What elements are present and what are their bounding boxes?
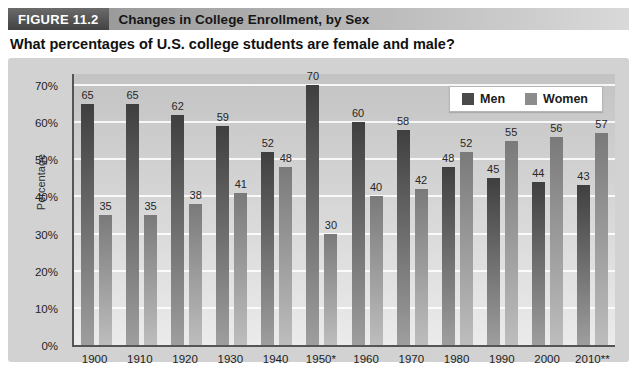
bar-women-1980: 52 (460, 152, 473, 345)
bar-men-1960: 60 (352, 122, 365, 345)
bar-group-1970: 5842 (390, 74, 435, 345)
x-axis-label-1970: 1970 (389, 353, 434, 365)
figure-question: What percentages of U.S. college student… (10, 36, 455, 52)
y-tick-label-70: 70% (10, 80, 58, 92)
bar-men-2010**: 43 (577, 185, 590, 345)
bar-value-label: 52 (460, 137, 472, 149)
bar-women-2000: 56 (550, 137, 563, 345)
bar-value-label: 59 (217, 111, 229, 123)
plot-area: 6535653562385941524870306040584248524555… (72, 74, 615, 347)
legend-item-women: Women (525, 92, 588, 106)
x-axis-label-1980: 1980 (434, 353, 479, 365)
bar-group-2000: 4456 (525, 74, 570, 345)
bar-value-label: 41 (235, 178, 247, 190)
bar-women-1930: 41 (234, 193, 247, 345)
figure-page: FIGURE 11.2 Changes in College Enrollmen… (0, 0, 636, 375)
bar-women-1920: 38 (189, 204, 202, 345)
bar-value-label: 44 (532, 167, 544, 179)
bar-value-label: 40 (370, 181, 382, 193)
bar-value-label: 56 (550, 122, 562, 134)
bar-women-2010**: 57 (595, 133, 608, 345)
x-axis-label-1960: 1960 (344, 353, 389, 365)
bar-men-1920: 62 (171, 115, 184, 345)
women-swatch-icon (525, 93, 537, 105)
x-axis-label-1950*: 1950* (298, 353, 343, 365)
x-axis-labels: 190019101920193019401950*196019701980199… (72, 353, 615, 365)
bar-men-2000: 44 (532, 182, 545, 345)
x-axis-label-1900: 1900 (72, 353, 117, 365)
bar-value-label: 60 (352, 107, 364, 119)
y-tick-label-50: 50% (10, 154, 58, 166)
bar-group-1900: 6535 (74, 74, 119, 345)
bar-women-1970: 42 (415, 189, 428, 345)
men-swatch-icon (462, 93, 474, 105)
legend-label-women: Women (543, 92, 588, 106)
bar-men-1990: 45 (487, 178, 500, 345)
bar-value-label: 57 (595, 118, 607, 130)
y-axis-ticks: 0%10%20%30%40%50%60%70% (8, 58, 66, 362)
bar-group-1960: 6040 (344, 74, 389, 345)
bar-value-label: 43 (577, 170, 589, 182)
x-axis-label-1990: 1990 (479, 353, 524, 365)
bar-value-label: 58 (397, 115, 409, 127)
x-axis-label-2010**: 2010** (570, 353, 615, 365)
bar-group-1950*: 7030 (299, 74, 344, 345)
bar-value-label: 48 (442, 152, 454, 164)
bar-group-1940: 5248 (254, 74, 299, 345)
bar-men-1930: 59 (216, 126, 229, 345)
y-tick-label-30: 30% (10, 229, 58, 241)
bar-men-1950*: 70 (306, 85, 319, 345)
x-axis-label-2000: 2000 (525, 353, 570, 365)
bar-men-1910: 65 (126, 104, 139, 345)
bar-group-1980: 4852 (435, 74, 480, 345)
bar-value-label: 35 (144, 200, 156, 212)
bar-women-1950*: 30 (324, 234, 337, 345)
bar-value-label: 55 (505, 126, 517, 138)
bar-women-1990: 55 (505, 141, 518, 345)
bar-men-1940: 52 (261, 152, 274, 345)
legend: Men Women (449, 86, 603, 112)
bar-women-1960: 40 (370, 196, 383, 345)
bar-women-1940: 48 (279, 167, 292, 345)
bar-groups: 6535653562385941524870306040584248524555… (74, 74, 615, 345)
legend-label-men: Men (480, 92, 505, 106)
x-axis-label-1940: 1940 (253, 353, 298, 365)
bar-group-1930: 5941 (209, 74, 254, 345)
bar-group-1990: 4555 (480, 74, 525, 345)
x-axis-label-1930: 1930 (208, 353, 253, 365)
y-tick-label-0: 0% (10, 340, 58, 352)
x-axis-label-1910: 1910 (117, 353, 162, 365)
figure-header: FIGURE 11.2 Changes in College Enrollmen… (8, 8, 629, 30)
bar-value-label: 45 (487, 163, 499, 175)
bar-value-label: 65 (81, 89, 93, 101)
y-tick-label-40: 40% (10, 191, 58, 203)
bar-value-label: 35 (99, 200, 111, 212)
x-axis-label-1920: 1920 (163, 353, 208, 365)
bar-value-label: 30 (325, 219, 337, 231)
bar-group-1920: 6238 (164, 74, 209, 345)
y-tick-label-10: 10% (10, 303, 58, 315)
bar-value-label: 38 (190, 189, 202, 201)
bar-women-1910: 35 (144, 215, 157, 345)
bar-women-1900: 35 (99, 215, 112, 345)
bar-value-label: 65 (126, 89, 138, 101)
bar-value-label: 70 (307, 70, 319, 82)
figure-number-label: FIGURE 11.2 (8, 8, 109, 30)
bar-men-1970: 58 (397, 130, 410, 345)
bar-group-2010**: 4357 (570, 74, 615, 345)
bar-group-1910: 6535 (119, 74, 164, 345)
chart-panel: Percentage 0%10%20%30%40%50%60%70% 65356… (8, 58, 629, 362)
y-tick-label-20: 20% (10, 266, 58, 278)
bar-value-label: 52 (262, 137, 274, 149)
bar-value-label: 48 (280, 152, 292, 164)
figure-title: Changes in College Enrollment, by Sex (109, 8, 629, 30)
legend-item-men: Men (462, 92, 505, 106)
bar-men-1980: 48 (442, 167, 455, 345)
bar-men-1900: 65 (81, 104, 94, 345)
y-tick-label-60: 60% (10, 117, 58, 129)
bar-value-label: 62 (172, 100, 184, 112)
bar-value-label: 42 (415, 174, 427, 186)
